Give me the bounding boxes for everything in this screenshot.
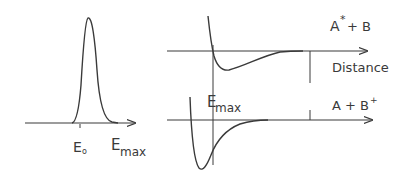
upper-state-asterisk: * <box>340 13 346 26</box>
emax-right-subscript: max <box>215 101 241 115</box>
upper-state-rest: + B <box>347 19 371 34</box>
diagram-canvas: E o E max A * + B Distance E max A + B + <box>0 0 405 180</box>
distance-axis-label: Distance <box>332 60 389 75</box>
e0-label: E <box>73 139 82 155</box>
energy-distribution-plot: E o E max <box>25 18 146 159</box>
e0-subscript: o <box>82 147 87 156</box>
excited-state-potential-curve <box>208 16 303 70</box>
emax-subscript: max <box>120 145 146 159</box>
upper-state-label: A <box>330 18 340 34</box>
lower-state-superscript: + <box>370 95 378 105</box>
potential-curves-plot: A * + B Distance E max A + B + <box>167 13 389 169</box>
lower-state-label: A + B <box>332 98 369 113</box>
distribution-peak-curve <box>72 18 118 123</box>
